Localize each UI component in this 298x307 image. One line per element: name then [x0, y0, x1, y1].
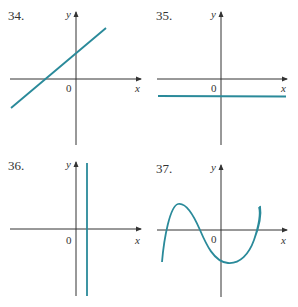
graph-line	[158, 96, 286, 97]
graph-line	[11, 28, 106, 108]
origin-label: 0	[66, 82, 72, 94]
y-axis-label: y	[65, 158, 71, 170]
x-axis-label: x	[134, 234, 140, 246]
origin-label: 0	[211, 233, 217, 245]
figure-number: 34.	[8, 8, 24, 23]
y-axis-label: y	[210, 8, 216, 20]
figure-34: 34. y x 0	[8, 8, 141, 145]
x-axis-label: x	[134, 82, 140, 94]
y-axis-label: y	[210, 161, 216, 173]
figure-37: 37. y x 0	[156, 161, 287, 297]
figure-canvas: 34. y x 0 35. y x 0 36. y x 0 37. y x 0	[0, 0, 298, 307]
figure-number: 36.	[8, 158, 24, 173]
x-axis-label: x	[280, 82, 286, 94]
figure-number: 37.	[156, 161, 172, 176]
figure-35: 35. y x 0	[156, 8, 287, 145]
figure-36: 36. y x 0	[8, 158, 141, 296]
y-axis-label: y	[65, 8, 71, 20]
x-axis-label: x	[280, 234, 286, 246]
figure-number: 35.	[156, 8, 172, 23]
origin-label: 0	[66, 234, 72, 246]
origin-label: 0	[211, 82, 217, 94]
